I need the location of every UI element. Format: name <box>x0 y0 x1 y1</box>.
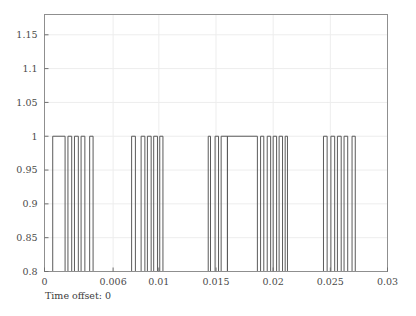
y-tick-label: 1.05 <box>16 97 37 108</box>
y-tick-label: 1 <box>31 131 37 142</box>
waveform-plot: 0.80.850.90.9511.051.11.15 00.0060.010.0… <box>0 0 416 316</box>
y-tick-label: 0.8 <box>22 266 37 277</box>
x-tick-label: 0.01 <box>148 276 169 287</box>
x-tick-label: 0.006 <box>99 276 126 287</box>
x-tick-label: 0.025 <box>317 276 344 287</box>
time-offset-caption: Time offset: 0 <box>45 290 111 301</box>
x-tick-label: 0 <box>41 276 47 287</box>
x-tick-label: 0.015 <box>202 276 229 287</box>
y-tick-label: 0.95 <box>16 164 37 175</box>
y-tick-label: 0.85 <box>16 232 37 243</box>
x-tick-label: 0.03 <box>377 276 398 287</box>
waveform-figure: 0.80.850.90.9511.051.11.15 00.0060.010.0… <box>0 0 416 316</box>
y-tick-label: 0.9 <box>22 198 37 209</box>
y-tick-label: 1.1 <box>22 63 37 74</box>
y-tick-label: 1.15 <box>16 29 37 40</box>
x-tick-label: 0.02 <box>263 276 284 287</box>
